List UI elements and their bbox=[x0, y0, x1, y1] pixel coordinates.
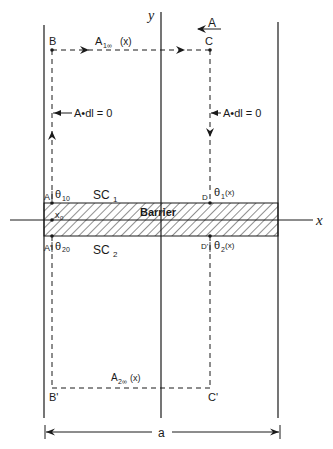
point-c bbox=[208, 48, 212, 52]
svg-text:(x): (x) bbox=[225, 188, 235, 197]
label-b: B bbox=[49, 35, 56, 47]
svg-text:θ: θ bbox=[55, 240, 61, 252]
y-axis-label: y bbox=[146, 8, 155, 23]
point-d-prime bbox=[208, 234, 212, 238]
arrow-down-icon bbox=[206, 128, 214, 137]
point-a bbox=[50, 201, 54, 205]
right-integral-annotation: A•dl = 0 bbox=[211, 107, 261, 119]
arrow-right-icon bbox=[176, 46, 185, 54]
label-c: C bbox=[205, 35, 213, 47]
josephson-junction-diagram: y x A B C B' C' A 1∞ (x) A 2∞ (x) A•dl =… bbox=[0, 0, 333, 449]
svg-text:A': A' bbox=[44, 243, 52, 253]
svg-text:A•dl = 0: A•dl = 0 bbox=[223, 107, 261, 119]
svg-text:(x): (x) bbox=[130, 373, 141, 383]
sc1-region-label: SC 1 bbox=[93, 188, 118, 204]
dimension-a: a bbox=[45, 425, 280, 440]
barrier-label: Barrier bbox=[140, 206, 177, 218]
sc2-region-label: SC 2 bbox=[93, 243, 118, 259]
svg-text:θ: θ bbox=[214, 186, 220, 198]
point-x0 bbox=[50, 218, 54, 222]
label-a-theta10: A θ 10 bbox=[44, 188, 70, 202]
label-a-prime-theta20: A' θ 20 bbox=[44, 240, 70, 253]
svg-text:1: 1 bbox=[113, 195, 118, 204]
svg-text:A•dl = 0: A•dl = 0 bbox=[74, 107, 112, 119]
svg-text:(x): (x) bbox=[225, 241, 235, 250]
svg-text:a: a bbox=[158, 426, 165, 440]
svg-text:D: D bbox=[202, 193, 208, 202]
svg-text:D': D' bbox=[201, 242, 209, 251]
point-a-prime bbox=[50, 234, 54, 238]
svg-text:SC: SC bbox=[93, 188, 110, 202]
label-d-prime-theta2: D' θ 2 (x) bbox=[201, 239, 235, 253]
point-b bbox=[50, 48, 54, 52]
bottom-path-label: A 2∞ (x) bbox=[111, 372, 141, 385]
x-axis-label: x bbox=[315, 212, 323, 228]
svg-text:20: 20 bbox=[62, 246, 70, 253]
svg-text:2: 2 bbox=[113, 250, 118, 259]
svg-text:1∞: 1∞ bbox=[103, 42, 112, 49]
svg-text:10: 10 bbox=[62, 195, 70, 202]
svg-text:θ: θ bbox=[214, 239, 220, 251]
svg-text:A: A bbox=[111, 372, 118, 383]
point-d bbox=[208, 201, 212, 205]
svg-text:(x): (x) bbox=[120, 36, 132, 47]
svg-text:θ: θ bbox=[55, 188, 61, 200]
left-integral-annotation: A•dl = 0 bbox=[53, 107, 112, 119]
svg-text:2∞: 2∞ bbox=[118, 378, 127, 385]
field-a-label: A bbox=[208, 16, 216, 30]
svg-text:A: A bbox=[95, 35, 103, 47]
svg-text:A: A bbox=[44, 192, 50, 202]
label-b-prime: B' bbox=[49, 391, 58, 403]
arrow-up-icon bbox=[48, 131, 56, 140]
svg-text:SC: SC bbox=[93, 243, 110, 257]
label-d-theta1: D θ 1 (x) bbox=[202, 186, 235, 202]
top-path-label: A 1∞ (x) bbox=[95, 35, 132, 49]
label-c-prime: C' bbox=[208, 391, 218, 403]
